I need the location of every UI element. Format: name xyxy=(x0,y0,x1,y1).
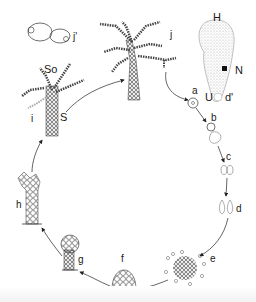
label-j-prime: j' xyxy=(73,32,77,42)
stage-h-column xyxy=(18,172,42,224)
life-cycle-diagram: j' j H N U d' a b c d e f g h i So S xyxy=(0,0,256,302)
label-H: H xyxy=(213,12,221,23)
label-e: e xyxy=(210,254,216,264)
label-i: i xyxy=(31,114,33,124)
label-f: f xyxy=(121,254,124,264)
stage-b-cell xyxy=(207,123,221,143)
label-j: j xyxy=(170,30,172,40)
stage-d-cells xyxy=(219,200,232,214)
stage-j-prime-cysts xyxy=(28,23,70,43)
label-h: h xyxy=(16,200,22,210)
label-b: b xyxy=(211,113,217,123)
stage-e-cell-aggregate xyxy=(164,250,205,285)
label-So: So xyxy=(44,64,57,75)
label-N: N xyxy=(235,65,243,76)
label-S: S xyxy=(60,112,67,123)
stage-a-zoospore xyxy=(188,98,198,108)
label-d: d xyxy=(236,204,242,214)
stage-g-bulb xyxy=(61,235,79,270)
label-U: U xyxy=(205,92,213,103)
label-a: a xyxy=(192,86,198,96)
stage-j-branched-colony xyxy=(100,22,176,100)
stage-host-organism xyxy=(199,20,234,102)
label-g: g xyxy=(78,255,84,265)
label-c: c xyxy=(226,152,231,162)
label-d-prime: d' xyxy=(225,92,233,103)
page-bottom-band xyxy=(0,286,256,302)
stage-c-cells xyxy=(221,166,233,175)
